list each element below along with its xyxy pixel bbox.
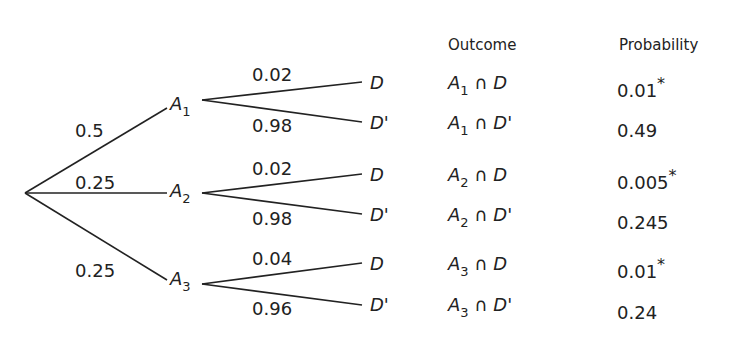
outcome-cell: A3 ∩ D' (448, 296, 512, 319)
branch-prob-a3: 0.25 (75, 262, 115, 280)
sub-prob: 0.02 (252, 66, 292, 84)
node-a3: A3 (170, 270, 191, 293)
end-d-prime: D' (370, 206, 389, 224)
header-outcome: Outcome (448, 38, 516, 53)
probability-cell: 0.24 (617, 298, 657, 322)
probability-cell: 0.49 (617, 116, 657, 140)
branch-prob-a2: 0.25 (75, 174, 115, 192)
sub-prob: 0.02 (252, 160, 292, 178)
header-probability: Probability (619, 38, 698, 53)
node-a2: A2 (170, 182, 191, 205)
end-d: D (370, 255, 384, 273)
probability-cell: 0.01* (617, 257, 665, 281)
sub-prob: 0.98 (252, 210, 292, 228)
outcome-cell: A2 ∩ D (448, 166, 507, 189)
branch-prob-a1: 0.5 (75, 122, 104, 140)
probability-cell: 0.245 (617, 208, 669, 232)
sub-prob: 0.96 (252, 300, 292, 318)
outcome-cell: A3 ∩ D (448, 255, 507, 278)
outcome-cell: A1 ∩ D' (448, 114, 512, 137)
outcome-cell: A1 ∩ D (448, 74, 507, 97)
end-d: D (370, 166, 384, 184)
probability-cell: 0.005* (617, 168, 677, 192)
node-a1: A1 (170, 95, 191, 118)
end-d-prime: D' (370, 114, 389, 132)
sub-prob: 0.98 (252, 117, 292, 135)
end-d: D (370, 74, 384, 92)
end-d-prime: D' (370, 296, 389, 314)
probability-cell: 0.01* (617, 76, 665, 100)
sub-prob: 0.04 (252, 250, 292, 268)
outcome-cell: A2 ∩ D' (448, 206, 512, 229)
